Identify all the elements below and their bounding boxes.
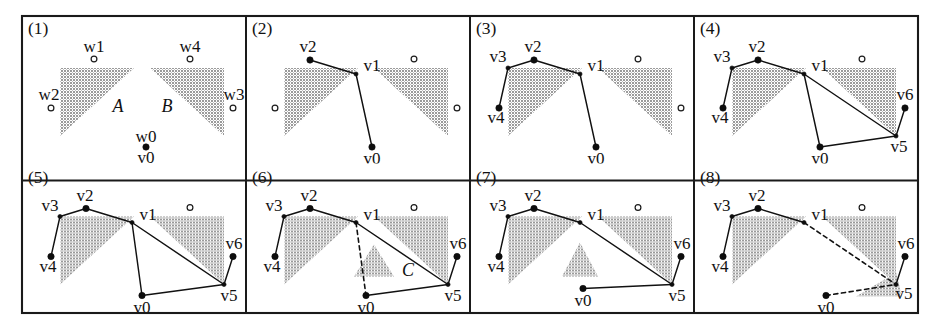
node-w1[interactable] xyxy=(187,205,193,211)
node-v1[interactable] xyxy=(802,220,806,224)
panel-2-content: v2v1v0(2) xyxy=(246,16,470,168)
node-v1-label: v1 xyxy=(364,56,381,75)
node-v4-label: v4 xyxy=(488,108,506,127)
panel-7: v2v3v1v4v0v5v6(7) xyxy=(470,165,694,314)
node-v6[interactable] xyxy=(454,253,460,259)
node-v0-label: w0 xyxy=(136,127,157,146)
panel-3-number: (3) xyxy=(476,18,497,38)
node-v3[interactable] xyxy=(58,214,62,218)
node-w3[interactable] xyxy=(678,105,684,111)
node-v5-label: v5 xyxy=(221,286,238,305)
node-v4-label: v4 xyxy=(264,257,282,276)
node-w2[interactable] xyxy=(272,105,278,111)
node-v2-label: v2 xyxy=(749,186,766,205)
node-w3[interactable] xyxy=(230,105,236,111)
node-w1-label: w1 xyxy=(84,37,105,56)
panel-8-content: v2v3v1v4v0v5v6(8) xyxy=(694,165,918,317)
node-v2[interactable] xyxy=(531,205,537,211)
node-v2[interactable] xyxy=(307,205,313,211)
node-v3-label: v3 xyxy=(714,47,731,66)
panel-7-number: (7) xyxy=(476,167,497,187)
panel-7-content: v2v3v1v4v0v5v6(7) xyxy=(470,165,694,314)
node-v3[interactable] xyxy=(730,214,734,218)
panel-3: v2v3v1v4v0(3) xyxy=(470,16,694,168)
node-v2[interactable] xyxy=(755,57,761,63)
panel-2: v2v1v0(2) xyxy=(246,16,470,168)
node-v4-label: v4 xyxy=(40,257,58,276)
node-v3-label: v3 xyxy=(42,196,59,215)
node-v6[interactable] xyxy=(902,105,908,111)
node-v6[interactable] xyxy=(902,253,908,259)
node-v2-label: v2 xyxy=(525,37,542,56)
node-w1[interactable] xyxy=(411,56,417,62)
node-v3[interactable] xyxy=(282,214,286,218)
node-v3[interactable] xyxy=(506,66,510,70)
panel-8: v2v3v1v4v0v5v6(8) xyxy=(694,165,918,317)
node-v1[interactable] xyxy=(130,220,134,224)
panel-6: v2v3v1v4v0v5v6C(6) xyxy=(246,165,470,317)
node-v5-label: v5 xyxy=(445,286,462,305)
node-v4-label: v4 xyxy=(488,257,506,276)
node-v1[interactable] xyxy=(578,220,582,224)
panel-1: w1w4w2w3w0v0AB(1) xyxy=(22,16,246,167)
region-label-C: C xyxy=(402,260,415,280)
node-v3-label: v3 xyxy=(490,47,507,66)
node-v0-label: v0 xyxy=(575,291,592,310)
node-w4-label: w4 xyxy=(180,37,201,56)
panel-6-content: v2v3v1v4v0v5v6C(6) xyxy=(246,165,470,317)
node-w1[interactable] xyxy=(859,205,865,211)
node-v6-label: v6 xyxy=(897,85,914,104)
panel-4: v2v3v1v4v0v5v6(4) xyxy=(694,16,918,168)
panel-1-content: w1w4w2w3w0v0AB(1) xyxy=(22,16,246,167)
node-v4-label: v4 xyxy=(712,257,730,276)
node-v1[interactable] xyxy=(802,72,806,76)
node-w3[interactable] xyxy=(454,105,460,111)
node-v3-label: v3 xyxy=(714,196,731,215)
panel-2-number: (2) xyxy=(252,18,273,38)
figure-root: w1w4w2w3w0v0AB(1)v2v1v0(2)v2v3v1v4v0(3)v… xyxy=(0,0,934,329)
node-v2[interactable] xyxy=(755,205,761,211)
panel-1-number: (1) xyxy=(28,18,49,38)
node-v1[interactable] xyxy=(354,72,358,76)
figure-canvas: w1w4w2w3w0v0AB(1)v2v1v0(2)v2v3v1v4v0(3)v… xyxy=(0,0,934,329)
node-w1[interactable] xyxy=(635,56,641,62)
node-v1-label: v1 xyxy=(588,205,605,224)
node-v2[interactable] xyxy=(307,57,313,63)
node-v6[interactable] xyxy=(230,253,236,259)
node-v3[interactable] xyxy=(506,214,510,218)
node-v1-label: v1 xyxy=(812,56,829,75)
node-v6[interactable] xyxy=(678,253,684,259)
node-v5-label: v5 xyxy=(669,286,686,305)
node-v6-label: v6 xyxy=(450,234,467,253)
node-v2[interactable] xyxy=(83,205,89,211)
node-v2-label: v2 xyxy=(525,186,542,205)
node-v5-label: v5 xyxy=(896,284,913,303)
node-w3-label: w3 xyxy=(224,85,245,104)
node-w1[interactable] xyxy=(91,56,97,62)
node-v1-label: v1 xyxy=(140,205,157,224)
node-v2[interactable] xyxy=(531,57,537,63)
node-w1[interactable] xyxy=(411,205,417,211)
node-v5-label: v5 xyxy=(891,137,908,156)
node-v2-label: v2 xyxy=(301,186,318,205)
node-w2-label: w2 xyxy=(39,85,60,104)
panel-4-content: v2v3v1v4v0v5v6(4) xyxy=(694,16,918,168)
panel-8-number: (8) xyxy=(700,167,721,187)
node-v1[interactable] xyxy=(578,72,582,76)
node-v1[interactable] xyxy=(354,220,358,224)
node-v6-label: v6 xyxy=(674,234,691,253)
node-w1[interactable] xyxy=(859,56,865,62)
node-v3-label: v3 xyxy=(266,196,283,215)
panel-3-content: v2v3v1v4v0(3) xyxy=(470,16,694,168)
node-w4[interactable] xyxy=(187,56,193,62)
node-v3[interactable] xyxy=(730,66,734,70)
node-w1[interactable] xyxy=(635,205,641,211)
node-v2-label: v2 xyxy=(77,186,94,205)
node-v6-label: v6 xyxy=(898,234,915,253)
node-v2-label: v2 xyxy=(749,37,766,56)
node-v4-label: v4 xyxy=(712,108,730,127)
panel-6-number: (6) xyxy=(252,167,273,187)
node-w2[interactable] xyxy=(48,105,54,111)
panel-5-number: (5) xyxy=(28,167,49,187)
node-v3-label: v3 xyxy=(490,196,507,215)
